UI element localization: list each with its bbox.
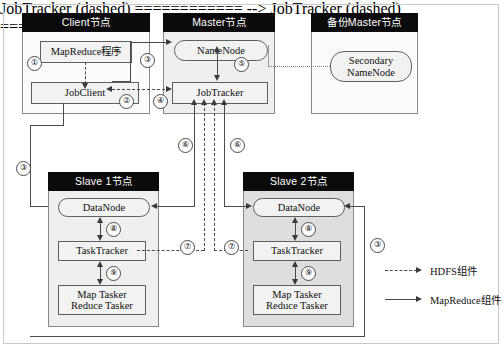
legend-mapreduce-arrowhead (416, 296, 422, 302)
conn-2-arrowhead-left (106, 86, 112, 92)
conn-4-arrowhead-right (166, 86, 172, 92)
box-mapreduce-program: MapReduce程序 (40, 41, 132, 63)
step-label-7-right: ⑦ (224, 240, 239, 255)
step-label-3-top: ③ (140, 53, 155, 68)
box-secondary-namenode: Secondary NameNode (330, 51, 412, 82)
conn-7-right-arrowhead (211, 99, 217, 105)
conn-8-slave2-arrow-down (292, 235, 298, 241)
conn-9-slave2-arrow-up (292, 261, 298, 267)
box-slave2-datanode: DataNode (253, 198, 345, 217)
conn-namenode-secondary-riser (268, 45, 269, 67)
step-label-3-right: ③ (370, 238, 385, 253)
conn-5-namenode-jobtracker (217, 50, 218, 78)
conn-namenode-secondary (268, 66, 330, 67)
conn-6-left-arrowhead (151, 203, 157, 209)
hadoop-architecture-diagram: Client节点 MapReduce程序 JobClient ① Master节… (0, 0, 504, 349)
legend-mapreduce-line (385, 299, 417, 300)
step-label-6-left: ⑥ (178, 138, 193, 153)
step-label-6-right: ⑥ (230, 138, 245, 153)
conn-6-right-arrow-up (221, 99, 227, 105)
legend-hdfs-line (385, 270, 417, 271)
conn-3-right-seg-h (350, 206, 365, 207)
conn-3-left-seg-h1 (30, 125, 64, 126)
conn-6-right-arrowhead (246, 203, 252, 209)
node-title-master: Master节点 (163, 13, 275, 32)
legend-label-hdfs: HDFS组件 (430, 263, 477, 278)
conn-3-right-seg-v (364, 206, 365, 337)
conn-6-left-seg-h (157, 206, 195, 207)
step-label-9-slave1: ⑨ (106, 266, 121, 281)
conn-7-right-seg-v (214, 103, 215, 251)
legend-label-mapreduce: MapReduce组件 (430, 292, 501, 307)
conn-6-left-seg-v (194, 103, 195, 206)
conn-1-program-to-jobclient (85, 62, 86, 84)
node-title-slave1: Slave 1节点 (48, 172, 159, 191)
step-label-8-slave2: ⑧ (301, 222, 316, 237)
conn-7-left-seg-v (204, 103, 205, 251)
box-slave1-tasker: Map Tasker Reduce Tasker (58, 285, 146, 315)
conn-9-slave1-arrow-down (97, 279, 103, 285)
conn-6-right-seg-v (224, 103, 225, 206)
box-slave2-tasker: Map Tasker Reduce Tasker (253, 285, 341, 315)
conn-7-left-arrowhead (201, 99, 207, 105)
step-label-9-slave2: ⑨ (301, 266, 316, 281)
conn-1-arrowhead (82, 83, 88, 89)
node-title-slave2: Slave 2节点 (243, 172, 354, 191)
conn-3-top-seg-v (130, 42, 131, 82)
step-label-4: ④ (153, 94, 168, 109)
conn-8-slave2-arrow-up (292, 217, 298, 223)
conn-6-left-arrow-up (191, 99, 197, 105)
conn-6-right-seg-h (224, 206, 248, 207)
conn-9-slave2-arrow-down (292, 279, 298, 285)
step-label-3-left: ③ (16, 161, 31, 176)
step-label-8-slave1: ⑧ (106, 222, 121, 237)
conn-3-right-seg-bottom (30, 336, 364, 337)
box-slave2-tasktracker: TaskTracker (253, 241, 341, 261)
node-panel-slave2: Slave 2节点 DataNode TaskTracker Map Taske… (243, 172, 354, 327)
conn-2-4-jobclient-jobtracker (112, 89, 170, 90)
conn-9-slave1-arrow-up (97, 261, 103, 267)
conn-3-left-seg-v1 (63, 103, 64, 125)
box-slave1-tasktracker: TaskTracker (58, 241, 146, 261)
step-label-7-left: ⑦ (180, 240, 195, 255)
conn-3-top-seg-h2 (130, 42, 168, 43)
legend-hdfs-arrowhead (416, 267, 422, 273)
step-label-5: ⑤ (234, 57, 249, 72)
step-label-1: ① (27, 56, 42, 71)
conn-3-top-seg-h1 (112, 81, 130, 82)
conn-3-right-arrowhead (344, 203, 350, 209)
node-title-client: Client节点 (22, 13, 150, 32)
box-namenode: NameNode (174, 40, 268, 61)
box-slave1-datanode: DataNode (58, 198, 150, 217)
node-panel-master: Master节点 NameNode JobTracker (163, 13, 275, 114)
conn-8-slave1-arrow-down (97, 235, 103, 241)
conn-5-arrowhead-down (214, 75, 220, 81)
conn-8-slave1-arrow-up (97, 217, 103, 223)
step-label-2: ② (119, 94, 134, 109)
node-panel-backup-master: 备份Master节点 Secondary NameNode (311, 13, 418, 114)
conn-3-top-arrowhead (166, 39, 172, 45)
node-title-backup-master: 备份Master节点 (311, 13, 418, 32)
conn-5-arrowhead-up (214, 46, 220, 52)
